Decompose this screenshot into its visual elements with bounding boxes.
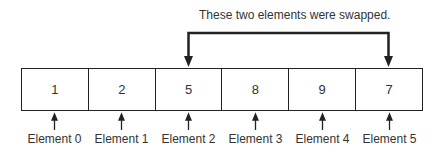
array-cell-4: 9	[289, 69, 356, 110]
array-cell-3: 8	[222, 69, 289, 110]
index-labels: Element 0 Element 1 Element 2 Element 3 …	[21, 132, 423, 146]
swap-arrowhead-left-icon	[184, 56, 193, 67]
index-label-5: Element 5	[356, 132, 423, 146]
index-label-4: Element 4	[289, 132, 356, 146]
swap-bracket	[189, 33, 389, 58]
index-label-0: Element 0	[21, 132, 88, 146]
array-cell-0: 1	[22, 69, 89, 110]
index-arrows	[52, 114, 392, 130]
index-label-2: Element 2	[155, 132, 222, 146]
index-label-3: Element 3	[222, 132, 289, 146]
array-row: 1 2 5 8 9 7	[21, 68, 423, 111]
array-cell-1: 2	[89, 69, 156, 110]
array-cell-5: 7	[356, 69, 422, 110]
array-cell-2: 5	[156, 69, 223, 110]
index-label-1: Element 1	[88, 132, 155, 146]
swap-arrowhead-right-icon	[384, 56, 393, 67]
